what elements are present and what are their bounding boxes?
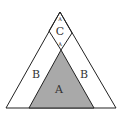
- region-a-label: A: [54, 83, 64, 96]
- region-b-left-label: B: [32, 68, 40, 81]
- region-c-small-bottom-label: A: [57, 41, 62, 47]
- region-c-small-top-label: A: [57, 16, 62, 22]
- region-c-label: C: [56, 25, 64, 38]
- diagram-canvas: A C A B B A: [0, 0, 122, 118]
- region-b-right-label: B: [80, 68, 88, 81]
- triangle-diagram: A C A B B A: [0, 0, 122, 118]
